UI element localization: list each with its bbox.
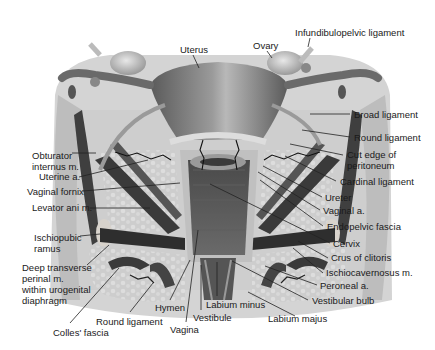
label-vaginal-fornix: Vaginal fornix [27,186,84,197]
leader-line-vagina [186,230,198,322]
leader-line-infundibulopelvic-ligament [308,38,310,47]
label-deep-transverse-perineal-m: Deep transverse perinal m. within urogen… [22,262,92,306]
leader-line-round-ligament-lower [130,283,153,312]
leader-line-vestibular-bulb [232,261,308,300]
leader-line-uterine-a [79,160,148,177]
label-cut-edge-peritoneum: Cut edge of peritoneum [347,149,396,171]
label-cervix: Cervix [333,238,360,249]
label-ischiocavernosus-m: Ischiocavernosus m. [326,267,413,278]
label-peroneal-a: Peroneal a. [320,280,369,291]
label-colles-fascia: Colles' fascia [53,327,109,338]
label-round-ligament-lower: Round ligament [96,316,163,327]
leader-line-ureter [263,166,322,197]
leader-line-vaginal-fornix [83,183,180,191]
leader-line-ischiocavernosus-m [293,248,323,273]
pelvic-anatomy-diagram: UterusOvaryInfundibulopelvic ligamentBro… [0,0,435,350]
label-cardinal-ligament: Cardinal ligament [340,176,414,187]
leader-line-endopelvic-fascia [260,180,323,226]
label-endopelvic-fascia: Endopelvic fascia [327,221,401,232]
label-vagina: Vagina [170,324,199,335]
label-crus-of-clitoris: Crus of clitoris [331,252,391,263]
label-uterus: Uterus [180,44,208,55]
leader-line-ischiopubic-ramus [80,234,100,236]
leader-line-cardinal-ligament [285,156,336,181]
label-obturator-internus-m: Obturator internus m. [32,150,79,172]
leader-line-round-ligament-upper [302,130,350,137]
leader-line-hymen [170,260,190,300]
label-levator-ani-m: Levator ani m. [32,202,92,213]
leader-line-cut-edge-peritoneum [290,144,343,155]
leader-line-ovary [267,51,272,58]
label-infundibulopelvic-ligament: Infundibulopelvic ligament [295,27,404,38]
label-vestibule: Vestibule [193,312,232,323]
label-round-ligament-upper: Round ligament [354,132,421,143]
label-vaginal-a: Vaginal a. [323,205,365,216]
label-uterine-a: Uterine a. [39,171,80,182]
label-broad-ligament: Broad ligament [354,109,418,120]
leader-line-cervix [210,184,330,243]
label-ovary: Ovary [253,40,278,51]
leader-line-uterus [193,55,199,68]
label-vestibular-bulb: Vestibular bulb [312,295,374,306]
label-labium-majus: Labium majus [268,313,327,324]
label-ureter: Ureter [325,192,351,203]
label-hymen: Hymen [155,302,185,313]
label-labium-minus: Labium minus [206,299,265,310]
label-ischiopubic-ramus: Ischiopubic ramus [34,232,82,254]
